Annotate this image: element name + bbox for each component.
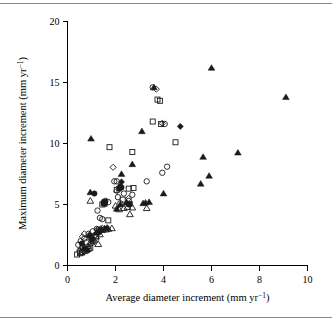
data-point-open-square [107,145,112,150]
data-point-open-triangle [87,198,94,204]
y-axis-title: Maximum diameter increment (mm yr−1) [16,56,29,230]
data-point-open-diamond [110,164,116,170]
scatter-plot-figure: 024681005101520 Average diameter increme… [0,0,332,319]
data-point-open-square [106,218,111,223]
data-point-filled-triangle [235,149,242,155]
series-filled-diamond [118,123,183,185]
data-point-filled-triangle [200,154,207,160]
data-point-filled-triangle [206,173,213,179]
data-point-filled-triangle [283,94,290,100]
data-point-open-circle [144,179,149,184]
x-axis-tick-label: 2 [113,274,118,285]
data-points-layer [75,65,290,257]
data-point-open-square [126,186,131,191]
data-point-filled-triangle [160,190,167,196]
data-point-open-square [173,140,178,145]
data-point-open-triangle [127,211,134,217]
y-axis-tick-label: 10 [50,138,60,149]
series-filled-circle [79,184,131,252]
x-axis-tick-label: 10 [303,274,313,285]
data-point-open-circle [95,208,100,213]
data-point-filled-triangle [118,171,125,177]
data-point-open-square [130,150,135,155]
data-point-open-square [150,119,155,124]
data-point-open-circle [160,170,165,175]
data-point-open-circle [121,191,126,196]
series-open-diamond [79,86,165,240]
x-axis-tick-label: 4 [161,274,166,285]
x-axis-title: Average diameter increment (mm yr−1) [105,291,270,304]
scatter-plot-svg: 024681005101520 Average diameter increme… [0,0,332,319]
data-point-filled-diamond [177,123,183,129]
series-open-circle [76,85,170,254]
data-point-filled-triangle [88,135,95,141]
data-point-open-triangle [95,241,102,247]
x-axis-tick-label: 8 [257,274,262,285]
data-point-filled-triangle [139,128,146,134]
y-axis-tick-label: 20 [50,16,60,27]
y-axis-tick-label: 0 [55,260,60,271]
y-axis-tick-label: 15 [50,77,60,88]
data-point-filled-square [102,201,107,206]
data-point-filled-triangle [129,161,136,167]
y-axis-tick-label: 5 [55,199,60,210]
x-axis-tick-label: 6 [209,274,214,285]
data-point-open-square [131,186,136,191]
data-point-open-circle [164,164,169,169]
data-point-filled-triangle [208,65,215,71]
x-axis-tick-label: 0 [65,274,70,285]
data-point-filled-triangle [197,181,204,187]
